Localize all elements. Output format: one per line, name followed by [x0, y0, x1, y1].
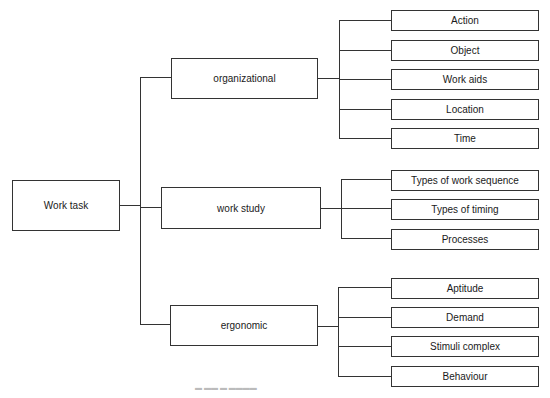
connector-types-of-work-sequence	[341, 179, 391, 180]
node-label: Action	[451, 15, 479, 26]
node-time: Time	[391, 128, 539, 149]
node-demand: Demand	[391, 307, 539, 328]
node-ergonomic: ergonomic	[170, 305, 318, 346]
node-types-of-work-sequence: Types of work sequence	[391, 170, 539, 191]
node-label: Demand	[446, 312, 484, 323]
node-label: Work task	[44, 200, 88, 211]
figure-caption-faded: ▬ ▬▬ ▬ ▬▬▬▬	[195, 384, 257, 391]
node-processes: Processes	[391, 229, 539, 250]
node-work-study: work study	[161, 187, 321, 229]
trunk-vertical	[140, 77, 141, 325]
node-types-of-timing: Types of timing	[391, 199, 539, 220]
connector-root	[120, 205, 141, 206]
connector-erg-out	[318, 326, 338, 327]
connector-organizational	[140, 77, 171, 78]
node-label: Time	[454, 133, 476, 144]
root-node-work-task: Work task	[12, 180, 120, 231]
node-behaviour: Behaviour	[391, 366, 539, 387]
connector-location	[339, 109, 391, 110]
node-aptitude: Aptitude	[391, 278, 539, 299]
node-label: Work aids	[443, 74, 487, 85]
node-stimuli-complex: Stimuli complex	[391, 336, 539, 357]
node-label: Processes	[442, 234, 489, 245]
connector-time	[339, 138, 391, 139]
node-label: ergonomic	[221, 320, 268, 331]
node-label: Aptitude	[447, 283, 484, 294]
node-label: Stimuli complex	[430, 341, 500, 352]
node-label: Object	[451, 45, 480, 56]
connector-stimuli-complex	[338, 346, 391, 347]
connector-demand	[338, 317, 391, 318]
connector-types-of-timing	[341, 208, 391, 209]
node-action: Action	[391, 10, 539, 31]
erg-branch-vertical	[338, 287, 339, 376]
connector-object	[339, 50, 391, 51]
connector-work-aids	[339, 79, 391, 80]
connector-processes	[341, 238, 391, 239]
connector-work-study	[140, 207, 161, 208]
connector-ergonomic	[140, 324, 170, 325]
connector-behaviour	[338, 376, 391, 377]
connector-action	[339, 20, 391, 21]
connector-aptitude	[338, 287, 391, 288]
node-work-aids: Work aids	[391, 69, 539, 90]
node-location: Location	[391, 99, 539, 120]
node-label: organizational	[213, 73, 275, 84]
connector-org-out	[318, 78, 339, 79]
node-label: Location	[446, 104, 484, 115]
node-label: Types of timing	[431, 204, 498, 215]
node-label: Types of work sequence	[411, 175, 519, 186]
node-object: Object	[391, 40, 539, 61]
node-label: Behaviour	[442, 371, 487, 382]
node-organizational: organizational	[171, 58, 318, 99]
node-label: work study	[217, 203, 265, 214]
connector-ws-out	[321, 208, 341, 209]
